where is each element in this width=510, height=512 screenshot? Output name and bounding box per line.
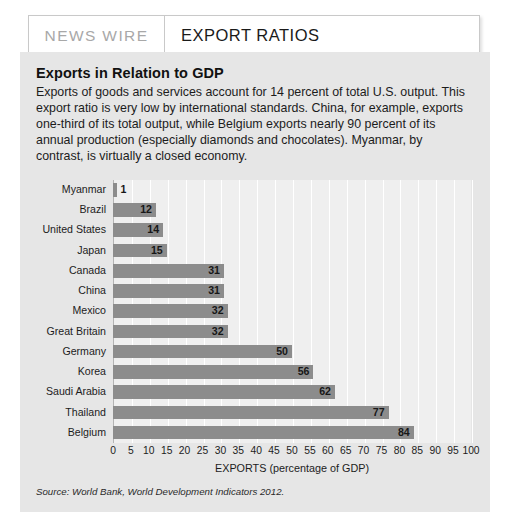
category-label: China <box>78 282 106 298</box>
x-axis-title: EXPORTS (percentage of GDP) <box>113 462 471 474</box>
bar-row: Germany50 <box>113 342 471 362</box>
bar-row: Mexico32 <box>113 301 471 321</box>
bar-value-label: 31 <box>204 263 220 277</box>
source-note: Source: World Bank, World Development In… <box>36 486 284 497</box>
bar-value-label: 32 <box>208 324 224 338</box>
bar-value-label: 15 <box>147 243 163 257</box>
x-tick-label: 70 <box>358 445 369 456</box>
bar <box>113 365 313 379</box>
category-label: Thailand <box>65 404 106 420</box>
category-label: United States <box>42 221 106 237</box>
bar-row: Thailand77 <box>113 403 471 423</box>
bar-row: Saudi Arabia62 <box>113 382 471 402</box>
bar <box>113 385 335 399</box>
article-paragraph: Exports of goods and services account fo… <box>36 84 472 164</box>
bar-row: Great Britain32 <box>113 322 471 342</box>
bar-value-label: 31 <box>204 283 220 297</box>
bar-row: Japan15 <box>113 241 471 261</box>
x-tick-label: 45 <box>268 445 279 456</box>
x-tick-label: 100 <box>462 445 479 456</box>
bar-value-label: 50 <box>272 344 288 358</box>
bar-row: Myanmar1 <box>113 180 471 200</box>
bar-value-label: 1 <box>121 182 127 196</box>
x-tick-label: 35 <box>233 445 244 456</box>
bar-value-label: 32 <box>208 303 224 317</box>
bar-value-label: 56 <box>293 364 309 378</box>
bar-rows: Myanmar1Brazil12United States14Japan15Ca… <box>113 180 471 443</box>
bar <box>113 345 292 359</box>
category-label: Germany <box>62 343 106 359</box>
category-label: Brazil <box>80 201 107 217</box>
bar-row: China31 <box>113 281 471 301</box>
bar-row: Belgium84 <box>113 423 471 443</box>
news-wire-figure: NEWS WIRE EXPORT RATIOS Exports in Relat… <box>0 0 510 512</box>
article-heading: Exports in Relation to GDP <box>36 65 224 81</box>
x-tick-label: 15 <box>161 445 172 456</box>
x-tick-label: 5 <box>128 445 134 456</box>
bar-value-label: 14 <box>143 222 159 236</box>
bar-row: Brazil12 <box>113 200 471 220</box>
bar-value-label: 84 <box>394 425 410 439</box>
x-tick-label: 50 <box>286 445 297 456</box>
gridline <box>472 180 473 443</box>
category-label: Canada <box>69 262 106 278</box>
header-title: EXPORT RATIOS <box>165 16 479 55</box>
category-label: Saudi Arabia <box>46 383 106 399</box>
x-tick-label: 10 <box>143 445 154 456</box>
bar-value-label: 77 <box>369 405 385 419</box>
category-label: Great Britain <box>47 323 106 339</box>
bar <box>113 406 389 420</box>
x-tick-label: 85 <box>412 445 423 456</box>
header-kicker: NEWS WIRE <box>29 16 164 55</box>
category-label: Belgium <box>68 424 106 440</box>
bar-row: United States14 <box>113 220 471 240</box>
bar-row: Canada31 <box>113 261 471 281</box>
x-tick-label: 0 <box>110 445 116 456</box>
x-tick-label: 60 <box>322 445 333 456</box>
x-tick-label: 25 <box>197 445 208 456</box>
x-tick-label: 65 <box>340 445 351 456</box>
x-axis-ticks: 0510152025303540455055606570758085909510… <box>113 445 471 461</box>
bar-value-label: 62 <box>315 384 331 398</box>
content-panel: Exports in Relation to GDP Exports of go… <box>20 52 490 512</box>
x-tick-label: 40 <box>250 445 261 456</box>
x-tick-label: 20 <box>179 445 190 456</box>
x-tick-label: 90 <box>429 445 440 456</box>
bar-row: Korea56 <box>113 362 471 382</box>
bar-value-label: 12 <box>136 202 152 216</box>
category-label: Japan <box>77 242 106 258</box>
bar <box>113 426 414 440</box>
category-label: Myanmar <box>62 181 106 197</box>
x-tick-label: 30 <box>215 445 226 456</box>
bar-chart: Myanmar1Brazil12United States14Japan15Ca… <box>30 180 485 480</box>
category-label: Korea <box>78 363 106 379</box>
x-tick-label: 80 <box>394 445 405 456</box>
x-tick-label: 95 <box>447 445 458 456</box>
category-label: Mexico <box>72 302 106 318</box>
x-tick-label: 75 <box>376 445 387 456</box>
header-banner: NEWS WIRE EXPORT RATIOS <box>28 15 480 56</box>
bar <box>113 183 117 197</box>
x-tick-label: 55 <box>304 445 315 456</box>
